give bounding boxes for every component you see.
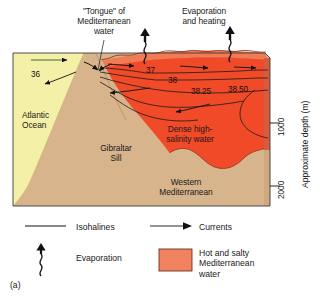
label-evaporation-and-heating: Evaporation and heating: [160, 6, 248, 26]
label-gibraltar-sill: Gibraltar Sill: [86, 143, 146, 163]
label-western-mediterranean: Western Mediterranean: [140, 177, 232, 197]
depth-tick-label-2000: 2000: [277, 181, 286, 199]
isohaline-label-38-25: 38.25: [191, 87, 211, 96]
depth-tick-label-1000: 1000: [277, 118, 286, 136]
panel-label: (a): [10, 280, 21, 290]
legend-water-swatch: [159, 249, 192, 271]
legend-label-isohalines: Isohalines: [76, 222, 115, 232]
block-right-face-water: [264, 58, 270, 150]
depth-axis-title: Approximate depth (m): [300, 101, 310, 188]
label-tongue-of-mediterranean-water: "Tongue" of Mediterranean water: [56, 6, 152, 37]
figure-container: "Tongue" of Mediterranean water Evaporat…: [0, 0, 321, 302]
isohaline-label-38-50: 38.50: [228, 85, 248, 94]
legend-evaporation-arrow: [36, 243, 45, 276]
label-atlantic-ocean: Atlantic Ocean: [22, 110, 84, 130]
isohaline-label-36: 36: [31, 70, 40, 79]
legend-label-evaporation: Evaporation: [76, 253, 122, 263]
legend-label-hot-and-salty-water: Hot and salty Mediterranean water: [199, 248, 254, 279]
legend-current-arrow: [150, 222, 192, 230]
isohaline-label-38: 38: [168, 76, 177, 85]
legend-label-currents: Currents: [199, 222, 232, 232]
diagram-canvas: [0, 0, 321, 302]
isohaline-label-37: 37: [146, 66, 155, 75]
label-dense-high-salinity-water: Dense high- salinity water: [148, 124, 232, 144]
